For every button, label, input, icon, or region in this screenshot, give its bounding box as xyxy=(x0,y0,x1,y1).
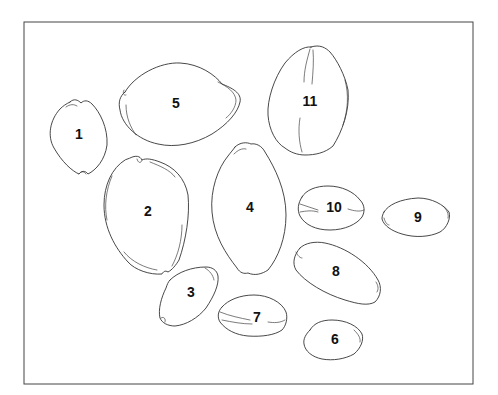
label-6: 6 xyxy=(331,331,339,347)
label-5: 5 xyxy=(172,95,180,111)
label-2: 2 xyxy=(144,203,152,219)
label-8: 8 xyxy=(332,263,340,279)
shell-6: 6 xyxy=(304,320,363,360)
shell-2: 2 xyxy=(104,156,189,274)
label-11: 11 xyxy=(303,93,318,109)
label-1: 1 xyxy=(75,126,83,142)
label-7: 7 xyxy=(253,309,261,325)
label-3: 3 xyxy=(187,284,195,300)
label-4: 4 xyxy=(246,199,254,215)
shell-10: 10 xyxy=(298,186,364,230)
label-10: 10 xyxy=(326,199,342,215)
shell-plate: 1 5 11 2 4 10 xyxy=(0,0,498,395)
shell-3: 3 xyxy=(159,267,218,326)
shell-5: 5 xyxy=(119,63,240,146)
shell-9: 9 xyxy=(382,198,450,236)
shell-11: 11 xyxy=(268,46,348,155)
label-9: 9 xyxy=(414,209,422,225)
shell-7: 7 xyxy=(218,295,287,336)
shell-1: 1 xyxy=(50,100,107,174)
shell-4: 4 xyxy=(212,143,286,275)
shell-8: 8 xyxy=(294,242,380,304)
